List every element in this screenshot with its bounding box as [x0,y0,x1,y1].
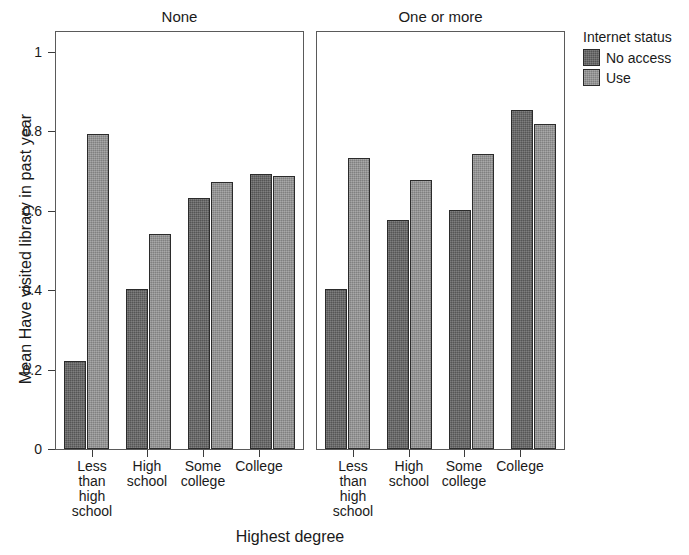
y-tick-label: 0.6 [0,203,42,219]
bar-some-college-no-access [449,210,471,449]
bar-college-use [273,176,295,449]
y-tick-label: 0.8 [0,123,42,139]
legend-label-no-access: No access [606,50,671,66]
x-tick-mark [409,450,410,457]
bar-less-than-high-school-use [348,158,370,449]
y-tick-mark [48,449,55,450]
x-tick-label-line: College [487,459,553,474]
x-tick-label-line: college [431,474,497,489]
x-tick-label-college: College [487,459,553,474]
panel-title-none: None [55,8,304,25]
x-tick-mark [353,450,354,457]
x-tick-label-college: College [226,459,292,474]
panel-title-one-or-more: One or more [316,8,565,25]
y-tick-mark [48,131,55,132]
bar-college-no-access [250,174,272,449]
bar-college-use [534,124,556,449]
legend-item-no-access[interactable]: No access [583,49,689,66]
y-tick-label: 1 [0,44,42,60]
x-tick-label-line: school [320,504,386,519]
legend-item-use[interactable]: Use [583,69,689,86]
bar-less-than-high-school-no-access [325,289,347,449]
bar-some-college-use [472,154,494,449]
y-tick-mark [48,370,55,371]
x-tick-label-line: high [59,489,125,504]
chart-canvas: Mean Have visited library in past year N… [0,0,689,555]
panel-none [55,31,304,450]
x-tick-mark [92,450,93,457]
legend-title: Internet status [583,29,689,45]
y-tick-label: 0.4 [0,282,42,298]
x-tick-label-line: College [226,459,292,474]
x-tick-mark [203,450,204,457]
x-axis-title: Highest degree [0,528,580,546]
bar-college-no-access [511,110,533,449]
x-tick-mark [464,450,465,457]
plot-area-none [56,32,303,449]
bar-high-school-use [149,234,171,449]
legend-label-use: Use [606,70,631,86]
x-tick-mark [520,450,521,457]
x-tick-mark [259,450,260,457]
bar-less-than-high-school-no-access [64,361,86,449]
bar-some-college-use [211,182,233,449]
x-tick-label-line: high [320,489,386,504]
x-tick-label-line: school [59,504,125,519]
x-tick-label-line: college [170,474,236,489]
legend-swatch-use [583,69,600,86]
legend: Internet status No access Use [583,29,689,89]
y-tick-mark [48,52,55,53]
y-tick-mark [48,211,55,212]
bar-high-school-no-access [126,289,148,449]
plot-area-one-or-more [317,32,564,449]
y-tick-label: 0 [0,441,42,457]
y-tick-mark [48,290,55,291]
legend-swatch-no-access [583,49,600,66]
y-tick-label: 0.2 [0,362,42,378]
panel-one-or-more [316,31,565,450]
bar-high-school-no-access [387,220,409,449]
bar-high-school-use [410,180,432,449]
bar-some-college-no-access [188,198,210,449]
x-tick-mark [147,450,148,457]
bar-less-than-high-school-use [87,134,109,449]
